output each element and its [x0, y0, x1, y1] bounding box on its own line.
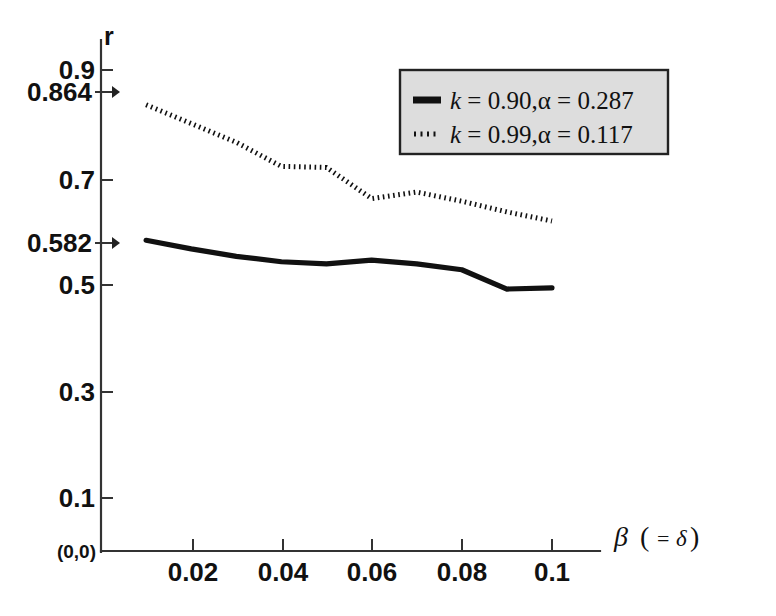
x-axis-label-beta: β — [613, 521, 628, 552]
x-tick-label-0.06: 0.06 — [347, 557, 398, 587]
origin-label: (0,0) — [57, 541, 96, 562]
y-tick-label-0.3: 0.3 — [59, 377, 95, 407]
legend-2-eq2: = — [551, 121, 578, 148]
legend-2-alphavalue: 0.117 — [577, 121, 632, 148]
legend-2-kvalue: 0.99 — [488, 121, 532, 148]
y-tick-label-0.864: 0.864 — [27, 77, 93, 107]
legend-1-kvalue: 0.90 — [488, 87, 532, 114]
x-axis-label: β ( = δ ) — [613, 521, 699, 552]
y-tick-labels: 0.9 0.864 0.7 0.582 0.5 0.3 0.1 — [27, 55, 95, 513]
x-tick-label-0.04: 0.04 — [258, 557, 309, 587]
x-tick-labels: 0.02 0.04 0.06 0.08 0.1 — [168, 557, 570, 587]
y-axis-label: r — [104, 22, 114, 50]
legend-label-2: k = 0.99,α = 0.117 — [450, 121, 633, 148]
y-tick-label-0.582: 0.582 — [27, 228, 92, 258]
x-tick-label-0.02: 0.02 — [168, 557, 219, 587]
x-tick-marks — [193, 539, 552, 551]
y-tick-0.582-marker — [95, 237, 120, 249]
legend-2-alpha: α — [538, 121, 551, 148]
series-line-k090 — [146, 240, 552, 289]
y-tick-label-0.5: 0.5 — [59, 270, 95, 300]
x-axis-label-delta: δ — [676, 526, 687, 551]
line-chart: 0.9 0.864 0.7 0.582 0.5 0.3 0.1 (0,0) 0.… — [0, 0, 776, 616]
x-axis-label-paren-open: ( — [640, 521, 649, 552]
legend-1-eq2: = — [551, 87, 578, 114]
legend-2-eq1: = — [461, 121, 488, 148]
x-axis-label-paren-close: ) — [690, 521, 699, 552]
y-tick-label-0.1: 0.1 — [59, 483, 95, 513]
legend: k = 0.90,α = 0.287 k = 0.99,α = 0.117 — [400, 70, 668, 154]
legend-1-eq1: = — [461, 87, 488, 114]
y-tick-label-0.7: 0.7 — [59, 165, 95, 195]
legend-1-alphavalue: 0.287 — [577, 87, 633, 114]
legend-1-alpha: α — [538, 87, 551, 114]
x-axis-label-equals: = — [657, 526, 669, 551]
y-tick-marks — [95, 70, 120, 498]
y-tick-0.864-marker — [95, 86, 120, 98]
x-tick-label-0.1: 0.1 — [534, 557, 570, 587]
legend-label-1: k = 0.90,α = 0.287 — [450, 87, 634, 114]
x-tick-label-0.08: 0.08 — [437, 557, 488, 587]
figure-container: 0.9 0.864 0.7 0.582 0.5 0.3 0.1 (0,0) 0.… — [0, 0, 776, 616]
